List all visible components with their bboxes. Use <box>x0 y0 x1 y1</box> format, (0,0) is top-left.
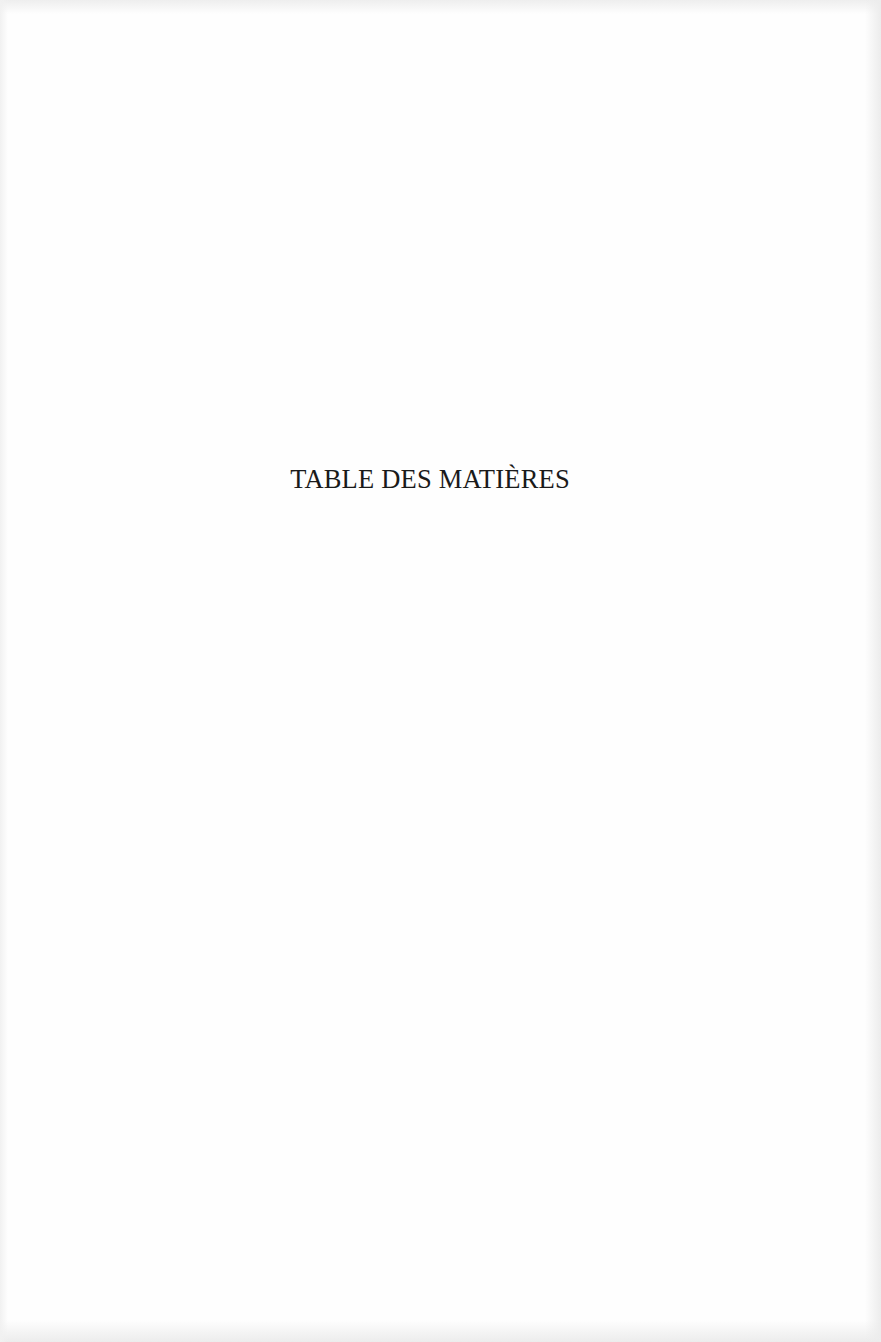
scan-edge-bottom <box>0 1320 881 1342</box>
document-page: TABLE DES MATIÈRES <box>0 0 881 1342</box>
scan-edge-right <box>865 0 881 1342</box>
page-title: TABLE DES MATIÈRES <box>0 462 860 496</box>
scan-edge-left <box>0 0 8 1342</box>
scan-edge-top <box>0 0 881 14</box>
